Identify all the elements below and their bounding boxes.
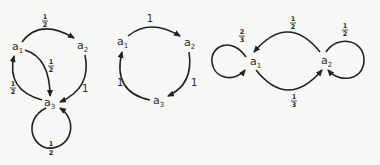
edge-a2-a3 (60, 55, 86, 102)
weight-a1-a1: 2 3 (239, 28, 245, 44)
edge-a2-a2 (326, 41, 364, 78)
svg-text:1: 1 (49, 140, 54, 148)
svg-text:2: 2 (43, 21, 48, 29)
weight-a2-a1: 1 2 (290, 15, 296, 31)
svg-text:2: 2 (343, 30, 348, 38)
svg-text:1: 1 (49, 58, 54, 66)
svg-text:1: 1 (343, 22, 348, 30)
node-a2: a2 (77, 39, 88, 54)
node-a3: a3 (44, 96, 55, 111)
edge-a1-a3 (25, 50, 50, 96)
node-a1: a1 (12, 40, 23, 55)
svg-text:2: 2 (49, 66, 54, 74)
svg-text:2: 2 (11, 88, 16, 96)
edge-a1-a2 (128, 27, 180, 36)
edge-a1-a1 (212, 45, 246, 77)
svg-text:1: 1 (291, 15, 296, 23)
weight-a2-a2: 1 2 (342, 22, 348, 38)
edge-a1-a2 (22, 29, 74, 42)
graph-3: a1 a2 2 3 1 2 1 3 1 2 (212, 15, 364, 109)
weight-a3-a1: 1 (117, 77, 123, 88)
edge-a3-a1 (120, 52, 150, 100)
weight-a3-a3: 1 2 (48, 140, 54, 157)
svg-text:1: 1 (11, 80, 16, 88)
weight-a2-a3: 1 (191, 77, 197, 88)
edge-a3-a1 (13, 56, 42, 100)
svg-text:1: 1 (43, 13, 48, 21)
svg-text:2: 2 (291, 23, 296, 31)
svg-text:3: 3 (292, 101, 297, 109)
weight-a1-a2: 1 3 (291, 93, 297, 109)
svg-text:3: 3 (240, 36, 245, 44)
edge-a1-a2 (256, 70, 322, 90)
graph-2: a1 a2 a3 1 1 1 (117, 13, 197, 109)
edge-a2-a1 (254, 32, 320, 52)
weight-a1-a3: 1 2 (48, 58, 54, 74)
node-a3: a3 (153, 94, 164, 109)
node-a1: a1 (117, 35, 128, 50)
graph-1: a1 a2 a3 1 2 1 2 1 1 2 1 2 (10, 13, 88, 157)
weight-a1-a2: 1 (147, 13, 153, 24)
node-a2: a2 (184, 36, 195, 51)
svg-text:2: 2 (240, 28, 245, 36)
node-a1: a1 (250, 55, 261, 70)
weight-a1-a2: 1 2 (42, 13, 48, 29)
weight-a3-a1: 1 2 (10, 80, 16, 96)
svg-text:1: 1 (292, 93, 297, 101)
markov-chain-diagrams: a1 a2 a3 1 2 1 2 1 1 2 1 2 a1 a2 (0, 0, 380, 165)
node-a2: a2 (321, 54, 332, 69)
weight-a2-a3: 1 (82, 83, 88, 94)
edge-a2-a3 (168, 52, 190, 96)
svg-text:2: 2 (49, 149, 54, 157)
